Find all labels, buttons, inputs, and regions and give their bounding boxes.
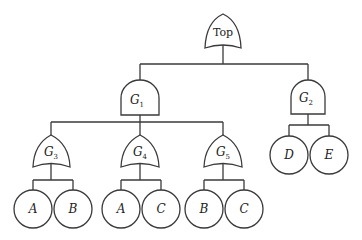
gate-g2-sub: 2 (309, 99, 313, 107)
basic-event-b-g3: B (54, 190, 92, 228)
basic-event-c-g5: C (225, 190, 263, 228)
gate-g1-sub: 1 (140, 101, 144, 109)
basic-event-d-g2: D (270, 136, 308, 174)
gate-g1-letter: G (130, 93, 140, 107)
gate-g4-or: G4 (121, 135, 159, 167)
gate-g3-letter: G (44, 145, 54, 159)
gate-g3-sub: 3 (54, 153, 58, 161)
basic-event-e-g2: E (310, 136, 348, 174)
svg-text:C: C (239, 202, 248, 216)
gate-g5-letter: G (216, 145, 226, 159)
svg-text:A: A (116, 202, 126, 216)
gate-g5-sub: 5 (226, 153, 230, 161)
svg-text:B: B (199, 202, 209, 216)
svg-text:B: B (68, 202, 78, 216)
basic-event-b-g5: B (185, 190, 223, 228)
svg-text:A: A (28, 202, 38, 216)
gate-g1-and: G1 (121, 80, 159, 115)
svg-text:D: D (283, 148, 294, 162)
svg-text:C: C (156, 202, 165, 216)
basic-event-c-g4: C (142, 190, 180, 228)
gate-g3-or: G3 (33, 135, 70, 167)
top-event-label: Top (213, 26, 233, 39)
top-event-or-gate: Top (205, 14, 241, 48)
gate-g5-or: G5 (204, 135, 242, 167)
basic-event-a-g4: A (102, 190, 140, 228)
gate-g4-letter: G (133, 145, 143, 159)
gate-g2-and: G2 (291, 80, 325, 114)
fault-tree-diagram: Top G1 G2 G3 G4 G5 (0, 0, 362, 240)
basic-event-a-g3: A (14, 190, 52, 228)
svg-text:E: E (324, 148, 334, 162)
gate-g2-letter: G (299, 91, 309, 105)
gate-g4-sub: 4 (143, 153, 148, 161)
